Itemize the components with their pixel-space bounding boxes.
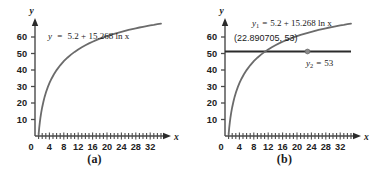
- x-tick-label: 24: [116, 142, 127, 152]
- y-tick-label: 20: [207, 98, 217, 108]
- x-axis-b: [225, 133, 361, 140]
- x-tick-label: 4: [47, 142, 53, 152]
- panel-b: y x 60 50 40 30 20 10 0 4 8 12 16 20 24 …: [190, 0, 379, 179]
- equation-lhs-a: y: [47, 31, 52, 41]
- equation-y1-eq: =: [262, 18, 267, 28]
- x-tick-label: 28: [321, 142, 331, 152]
- x-tick-label: 32: [145, 142, 155, 152]
- equation-y1-rhs: 5.2 + 15.268 ln x: [270, 18, 332, 28]
- x-tick-label: 20: [292, 142, 302, 152]
- equation-eq-a: =: [57, 31, 62, 41]
- x-tick-label: 28: [131, 142, 141, 152]
- y-tick-label: 20: [17, 98, 27, 108]
- x-tick-label: 12: [263, 142, 273, 152]
- y-tick-label: 10: [17, 115, 27, 125]
- panel-a-plot: y x 60 50 40 30 20 10 0 4 8 12 16 20 24 …: [0, 0, 189, 155]
- x-axis-a: [35, 133, 171, 140]
- x-tick-label: 8: [61, 142, 66, 152]
- x-tick-label: 16: [277, 142, 287, 152]
- caption-a: (a): [0, 152, 189, 167]
- x-axis-label-b: x: [363, 132, 369, 142]
- y-tick-label: 60: [207, 32, 217, 42]
- equation-label-y1: y1=5.2 + 15.268 ln x: [251, 18, 332, 29]
- x-axis-label-a: x: [173, 132, 179, 142]
- intersection-point-marker: [305, 49, 310, 54]
- x-tick-label: 8: [251, 142, 256, 152]
- caption-b: (b): [190, 152, 379, 167]
- x-tick-label: 32: [335, 142, 345, 152]
- equation-y1-subscript: 1: [256, 22, 259, 29]
- x-tick-label: 0: [218, 142, 223, 152]
- x-tick-label: 12: [73, 142, 83, 152]
- y-tick-label: 50: [17, 49, 27, 59]
- y-tick-label: 40: [207, 65, 217, 75]
- equation-y2-subscript: 2: [310, 62, 313, 69]
- y-tick-label: 30: [17, 82, 27, 92]
- y-tick-label: 50: [207, 49, 217, 59]
- x-tick-label: 24: [306, 142, 317, 152]
- y-axis-a: [31, 18, 38, 136]
- equation-label-a: y = 5.2 + 15.268 ln x: [47, 31, 130, 41]
- y-axis-b: [221, 18, 228, 136]
- equation-y2-rhs: 53: [324, 58, 334, 68]
- y-axis-label-b: y: [219, 6, 225, 16]
- equation-y2-eq: =: [316, 58, 321, 68]
- equation-label-y2: y2=53: [305, 58, 334, 69]
- panel-b-plot: y x 60 50 40 30 20 10 0 4 8 12 16 20 24 …: [190, 0, 379, 155]
- y-tick-label: 10: [207, 115, 217, 125]
- y-tick-label: 60: [17, 32, 27, 42]
- equation-rhs-a: 5.2 + 15.268 ln x: [68, 31, 130, 41]
- y-tick-label: 40: [17, 65, 27, 75]
- x-tick-label: 0: [28, 142, 33, 152]
- x-tick-label: 4: [237, 142, 243, 152]
- y-tick-label: 30: [207, 82, 217, 92]
- x-tick-label: 20: [102, 142, 112, 152]
- y-axis-label-a: y: [29, 6, 35, 16]
- panel-a: y x 60 50 40 30 20 10 0 4 8 12 16 20 24 …: [0, 0, 189, 179]
- figure-container: y x 60 50 40 30 20 10 0 4 8 12 16 20 24 …: [0, 0, 379, 179]
- intersection-point-label: (22.890705, 53): [234, 33, 298, 43]
- x-tick-label: 16: [87, 142, 97, 152]
